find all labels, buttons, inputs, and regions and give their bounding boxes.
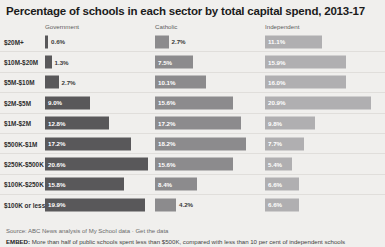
bar-value-label: 15.9% (268, 59, 286, 66)
bar-group-government: 1.3% (45, 56, 155, 69)
bar-group-catholic: 8.4% (155, 178, 265, 191)
bar-group-government: 19.9% (45, 198, 155, 211)
bar-value-label: 15.6% (158, 99, 176, 106)
chart-row: $10M-$20M1.3%7.5%15.9% (0, 51, 385, 71)
row-label: $5M-$10M (4, 79, 35, 86)
source-separator: · (132, 228, 134, 234)
bar-value-label: 15.6% (158, 161, 176, 168)
bar-value-label: 17.2% (48, 140, 66, 147)
bar-value-label: 20.9% (268, 99, 286, 106)
bar-value-label: 0.6% (51, 38, 65, 45)
chart-rows: $20M+0.6%2.7%11.1%$10M-$20M1.3%7.5%15.9%… (0, 32, 385, 215)
bar-group-government: 15.8% (45, 178, 155, 191)
source-text: Source: ABC News analysis of My School d… (6, 228, 130, 234)
embed-caption: More than half of public schools spent l… (32, 238, 345, 245)
bar-group-catholic: 4.2% (155, 198, 265, 211)
bar-group-independent: 16.0% (265, 76, 377, 89)
source-line: Source: ABC News analysis of My School d… (6, 228, 379, 234)
bar-value-label: 2.7% (62, 79, 76, 86)
bar-value-label: 8.4% (158, 181, 172, 188)
row-label: $500K-$1M (4, 140, 37, 147)
chart-row: $100K-$250K15.8%8.4%6.6% (0, 174, 385, 194)
row-label: $20M+ (4, 38, 24, 45)
chart-row: $2M-$5M9.0%15.6%20.9% (0, 92, 385, 112)
bar-group-independent: 15.9% (265, 56, 377, 69)
get-the-data-link[interactable]: Get the data (135, 228, 168, 234)
row-label: $100K or less (4, 201, 45, 208)
bar-group-government: 12.8% (45, 117, 155, 130)
bar-group-catholic: 7.5% (155, 56, 265, 69)
embed-label: EMBED: (6, 238, 30, 245)
series-header-independent: Independent (265, 23, 299, 30)
bar-group-independent: 6.6% (265, 198, 377, 211)
bar-value-label: 11.1% (268, 38, 285, 45)
chart-footer: Source: ABC News analysis of My School d… (0, 228, 385, 247)
chart-row: $100K or less19.9%4.2%6.6% (0, 194, 385, 214)
bar-group-catholic: 18.2% (155, 137, 265, 150)
bar-group-government: 2.7% (45, 76, 155, 89)
bar[interactable] (45, 56, 52, 69)
bar[interactable] (155, 35, 169, 48)
bar-group-independent: 9.8% (265, 117, 377, 130)
bar-group-independent: 5.4% (265, 158, 377, 171)
bar-value-label: 9.0% (48, 99, 62, 106)
chart-row: $500K-$1M17.2%18.2%7.7% (0, 133, 385, 153)
bar-group-independent: 20.9% (265, 96, 377, 109)
row-label: $100K-$250K (4, 181, 44, 188)
series-header-government: Government (45, 23, 79, 30)
bar-group-catholic: 15.6% (155, 96, 265, 109)
bar-group-government: 20.6% (45, 158, 155, 171)
bar-value-label: 15.8% (48, 181, 66, 188)
chart-row: $20M+0.6%2.7%11.1% (0, 32, 385, 51)
bar[interactable] (155, 198, 176, 211)
bar-group-government: 17.2% (45, 137, 155, 150)
chart-plot-area: Government Catholic Independent $20M+0.6… (0, 21, 385, 210)
bar[interactable] (45, 35, 48, 48)
bar-value-label: 5.4% (268, 161, 282, 168)
bar-value-label: 20.6% (48, 161, 66, 168)
chart-row: $1M-$2M12.8%17.2%9.8% (0, 113, 385, 133)
bar-value-label: 2.7% (172, 38, 186, 45)
bar-group-catholic: 15.6% (155, 158, 265, 171)
bar-value-label: 4.2% (179, 201, 193, 208)
bar-value-label: 18.2% (158, 140, 176, 147)
bar-value-label: 7.7% (268, 140, 282, 147)
row-label: $1M-$2M (4, 120, 31, 127)
bar-value-label: 9.8% (268, 120, 282, 127)
bar-group-independent: 6.6% (265, 178, 377, 191)
bar-value-label: 7.5% (158, 59, 172, 66)
bar-value-label: 6.6% (268, 201, 282, 208)
page-title: Percentage of schools in each sector by … (0, 0, 385, 18)
row-label: $10M-$20M (4, 59, 38, 66)
bar-group-catholic: 10.1% (155, 76, 265, 89)
bar-group-government: 9.0% (45, 96, 155, 109)
row-label: $2M-$5M (4, 99, 31, 106)
bar-group-independent: 11.1% (265, 35, 377, 48)
bar-group-catholic: 2.7% (155, 35, 265, 48)
chart-row: $250K-$500K20.6%15.6%5.4% (0, 153, 385, 173)
bar-group-government: 0.6% (45, 35, 155, 48)
bar-value-label: 12.8% (48, 120, 66, 127)
bar-value-label: 1.3% (55, 59, 69, 66)
bar-group-catholic: 17.2% (155, 117, 265, 130)
bar-value-label: 10.1% (158, 79, 176, 86)
bar-value-label: 16.0% (268, 79, 286, 86)
series-headers: Government Catholic Independent (0, 21, 385, 32)
embed-line: EMBED: More than half of public schools … (6, 238, 379, 245)
bar-value-label: 6.6% (268, 181, 282, 188)
bar[interactable] (45, 76, 59, 89)
bar-value-label: 17.2% (158, 120, 176, 127)
bar-group-independent: 7.7% (265, 137, 377, 150)
series-header-catholic: Catholic (155, 23, 177, 30)
bar-value-label: 19.9% (48, 201, 66, 208)
row-label: $250K-$500K (4, 161, 44, 168)
chart-row: $5M-$10M2.7%10.1%16.0% (0, 72, 385, 92)
